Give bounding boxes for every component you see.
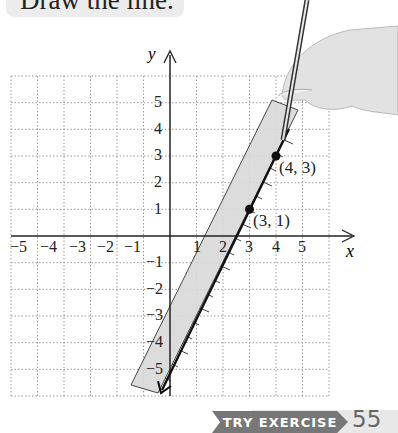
y-tick: 4 — [154, 120, 162, 138]
y-axis-label: y — [148, 44, 156, 64]
x-tick: 2 — [219, 238, 227, 256]
y-tick: −1 — [146, 253, 163, 271]
x-tick: −3 — [69, 238, 86, 256]
x-tick: −1 — [124, 238, 141, 256]
point-label-3-1: (3, 1) — [253, 211, 290, 231]
y-tick: 5 — [154, 93, 162, 111]
y-tick: 3 — [154, 146, 162, 164]
x-tick: −2 — [97, 238, 114, 256]
y-tick: 1 — [154, 200, 162, 218]
coordinate-plane — [0, 0, 398, 433]
y-tick: 2 — [154, 173, 162, 191]
graph-line — [162, 129, 289, 390]
footer: TRY EXERCISE 55 — [0, 410, 398, 433]
y-tick: −4 — [146, 333, 163, 351]
exercise-number[interactable]: 55 — [352, 406, 381, 432]
x-tick: −4 — [40, 238, 57, 256]
x-tick: −5 — [10, 238, 27, 256]
y-tick: −3 — [146, 306, 163, 324]
try-exercise-button[interactable]: TRY EXERCISE — [212, 411, 348, 433]
x-tick: 1 — [193, 238, 201, 256]
point-label-4-3: (4, 3) — [279, 158, 316, 178]
y-tick: −2 — [146, 280, 163, 298]
x-tick: 5 — [298, 238, 306, 256]
x-axis-label: x — [346, 241, 354, 262]
x-tick: 3 — [245, 238, 253, 256]
y-tick: −5 — [146, 360, 163, 378]
x-tick: 4 — [272, 238, 280, 256]
hand-with-pencil-illustration — [278, 0, 398, 140]
